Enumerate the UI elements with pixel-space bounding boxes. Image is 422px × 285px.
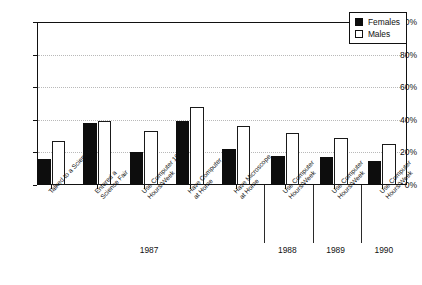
bar-females-0 xyxy=(37,159,51,185)
legend-label-females: Females xyxy=(368,18,400,26)
y-tick-mark-40 xyxy=(33,120,37,121)
y-tick-label-60: 60% xyxy=(384,83,417,92)
legend-swatch-filled-square-icon xyxy=(355,18,363,26)
gridline-40 xyxy=(38,120,406,121)
y-tick-mark-100 xyxy=(33,22,37,23)
legend-label-males: Males xyxy=(368,30,390,38)
y-tick-mark-60 xyxy=(33,87,37,88)
y-tick-mark-20 xyxy=(33,152,37,153)
group-separator-3 xyxy=(361,185,362,243)
group-separator-2 xyxy=(313,185,314,243)
group-label-1987: 1987 xyxy=(37,246,261,254)
y-tick-label-40: 40% xyxy=(384,116,417,125)
y-tick-mark-0 xyxy=(33,185,37,186)
y-tick-label-80: 80% xyxy=(384,51,417,60)
group-label-1988: 1988 xyxy=(264,246,310,254)
legend-item-males: Males xyxy=(355,28,400,40)
group-separator-1 xyxy=(264,185,265,243)
legend: Females Males xyxy=(349,12,407,44)
group-label-1990: 1990 xyxy=(361,246,407,254)
gridline-60 xyxy=(38,87,406,88)
gridline-80 xyxy=(38,55,406,56)
y-tick-mark-80 xyxy=(33,55,37,56)
legend-item-females: Females xyxy=(355,16,400,28)
legend-swatch-open-square-icon xyxy=(355,30,363,38)
group-label-1989: 1989 xyxy=(313,246,359,254)
